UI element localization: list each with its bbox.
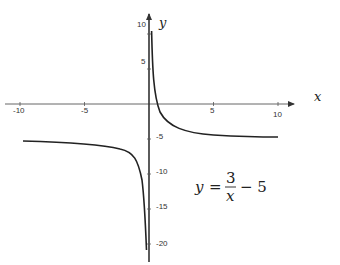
x-tick-label: 10 <box>273 110 282 119</box>
function-graph: -10 -5 5 10 10 5 -5 -10 -15 -20 x y y = … <box>0 0 340 265</box>
y-tick-label: -20 <box>156 239 168 248</box>
curve-left-branch <box>23 141 147 250</box>
equation-rest: − 5 <box>240 178 267 196</box>
x-tick-label: 5 <box>210 106 215 115</box>
x-tick-label: -5 <box>81 106 89 115</box>
equation-lhs: y <box>194 178 204 196</box>
curve-right-branch-smooth <box>152 31 278 137</box>
x-axis-label: x <box>314 89 322 104</box>
equation-numerator: 3 <box>226 169 236 187</box>
y-tick-label: -15 <box>156 202 168 211</box>
y-tick-label: -10 <box>156 167 168 176</box>
y-tick-label: -5 <box>156 132 164 141</box>
x-tick-label: -10 <box>13 106 25 115</box>
equation-label: y = 3 x − 5 <box>194 169 267 205</box>
equation-equals: = <box>209 178 222 196</box>
y-axis-label: y <box>158 15 167 30</box>
y-tick-label: 10 <box>137 20 146 29</box>
y-tick-label: 5 <box>141 57 146 66</box>
equation-denominator: x <box>226 187 235 205</box>
